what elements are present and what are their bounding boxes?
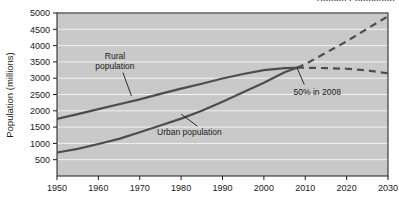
y-axis: 500100015002000250030003500400045005000 [30, 8, 57, 165]
chart-figure: Human Population 50010001500200025003000… [0, 0, 399, 204]
x-tick-label: 1980 [171, 183, 191, 193]
y-tick-label: 3000 [30, 73, 50, 83]
rural-population-label-line2: population [95, 61, 135, 71]
urban-population-label: Urban population [157, 127, 222, 137]
population-line-chart: 500100015002000250030003500400045005000 … [0, 0, 399, 204]
x-tick-label: 1960 [88, 183, 108, 193]
y-tick-label: 4500 [30, 25, 50, 35]
crossover-annotation-label: 50% in 2008 [294, 87, 342, 97]
y-tick-label: 3500 [30, 57, 50, 67]
x-tick-label: 2020 [337, 183, 357, 193]
y-tick-label: 500 [35, 155, 50, 165]
x-tick-label: 1990 [212, 183, 232, 193]
x-axis: 195019601970198019902000201020202030 [47, 176, 398, 193]
x-tick-label: 1970 [130, 183, 150, 193]
y-tick-label: 5000 [30, 8, 50, 18]
x-tick-label: 2010 [295, 183, 315, 193]
x-tick-label: 1950 [47, 183, 67, 193]
y-tick-label: 2500 [30, 90, 50, 100]
page-header-cut-text: Human Population [317, 0, 395, 1]
x-tick-label: 2030 [378, 183, 398, 193]
rural-population-label-line1: Rural [105, 51, 125, 61]
y-tick-label: 2000 [30, 106, 50, 116]
y-tick-label: 1000 [30, 139, 50, 149]
y-axis-title: Population (millions) [4, 52, 15, 138]
y-tick-label: 1500 [30, 122, 50, 132]
x-tick-label: 2000 [254, 183, 274, 193]
y-tick-label: 4000 [30, 41, 50, 51]
